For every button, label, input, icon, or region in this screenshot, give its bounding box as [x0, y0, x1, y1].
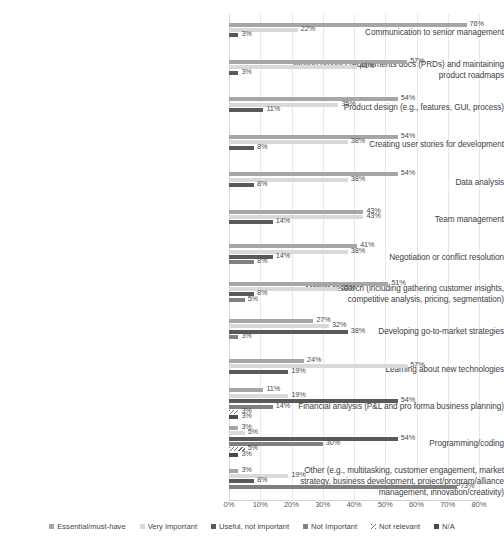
bar-very-important	[229, 324, 329, 328]
bar-row: 38%	[229, 330, 479, 334]
bar-row: 27%	[229, 319, 479, 323]
bar-value-label: 8%	[257, 256, 267, 266]
bar-row: 54%	[229, 437, 479, 441]
legend-label: Essential/must-have	[57, 522, 125, 531]
bar-row: 57%	[229, 60, 479, 64]
x-tick-label: 70%	[440, 500, 455, 509]
bar-value-label: 3%	[241, 331, 251, 341]
legend-label: Not relevant	[379, 522, 420, 531]
bar-group: 54%35%11%	[229, 97, 479, 113]
bar-not-relevant	[229, 410, 238, 414]
bar-very-important	[229, 287, 338, 291]
bar-row: 24%	[229, 359, 479, 363]
legend-item-very-important[interactable]: Very Important	[140, 522, 197, 531]
square-swatch	[211, 524, 216, 529]
bar-value-label: 3%	[241, 29, 251, 39]
bar-row: 11%	[229, 388, 479, 392]
bar-useful-not-important	[229, 183, 254, 187]
bar-essential-must-have	[229, 172, 398, 176]
bar-group: 41%38%14%8%	[229, 244, 479, 266]
bar-row: 19%	[229, 394, 479, 398]
bar-group: 43%43%14%	[229, 210, 479, 226]
legend-label: Very Important	[148, 522, 197, 531]
bar-value-label: 73%	[460, 481, 474, 491]
bar-row: 14%	[229, 405, 479, 409]
bar-row: 14%	[229, 220, 479, 224]
bar-essential-must-have	[229, 244, 357, 248]
x-tick-label: 40%	[346, 500, 361, 509]
bar-group: 11%19%54%14%3%3%	[229, 388, 479, 420]
bar-row: 8%	[229, 146, 479, 150]
bar-essential-must-have	[229, 97, 398, 101]
bar-row: 8%	[229, 479, 479, 483]
bar-useful-not-important	[229, 437, 398, 441]
bar-very-important	[229, 215, 363, 219]
x-tick-label: 20%	[284, 500, 299, 509]
bar-very-important	[229, 28, 298, 32]
bar-row: 3%	[229, 71, 479, 75]
bar-group: 54%38%8%	[229, 172, 479, 188]
bar-row: 43%	[229, 210, 479, 214]
square-swatch	[303, 524, 308, 529]
x-tick-label: 60%	[409, 500, 424, 509]
bar-value-label: 3%	[241, 411, 251, 421]
bar-not-important	[229, 442, 323, 446]
bar-row: 5%	[229, 447, 479, 451]
bar-essential-must-have	[229, 426, 238, 430]
plot-area: 76%22%3%57%41%3%54%35%11%54%38%8%54%38%8…	[229, 14, 479, 500]
bar-row: 3%	[229, 33, 479, 37]
bar-essential-must-have	[229, 60, 407, 64]
legend-item-n-a[interactable]: N/A	[434, 522, 455, 531]
bar-group: 27%32%38%3%	[229, 319, 479, 341]
bar-value-label: 3%	[241, 449, 251, 459]
bar-row: 8%	[229, 292, 479, 296]
legend-label: N/A	[442, 522, 455, 531]
bar-not-important	[229, 260, 254, 264]
bar-group: 3%5%54%30%5%3%	[229, 426, 479, 458]
bar-group: 24%57%19%	[229, 359, 479, 375]
bar-row: 3%	[229, 453, 479, 457]
bar-not-important	[229, 335, 238, 339]
bar-group: 3%19%8%73%	[229, 469, 479, 491]
bar-useful-not-important	[229, 370, 288, 374]
bar-row: 3%	[229, 426, 479, 430]
bar-row: 3%	[229, 335, 479, 339]
bar-very-important	[229, 103, 338, 107]
bar-useful-not-important	[229, 71, 238, 75]
bar-essential-must-have	[229, 388, 263, 392]
bar-row: 3%	[229, 469, 479, 473]
bar-useful-not-important	[229, 108, 263, 112]
legend-item-not-relevant[interactable]: Not relevant	[371, 522, 420, 531]
x-tick-label: 10%	[253, 500, 268, 509]
bar-row: 73%	[229, 485, 479, 489]
bar-very-important	[229, 364, 407, 368]
bar-row: 8%	[229, 260, 479, 264]
legend-item-not-important[interactable]: Not Important	[303, 522, 357, 531]
bar-row: 41%	[229, 65, 479, 69]
bar-row: 22%	[229, 28, 479, 32]
hatched-swatch	[371, 524, 376, 529]
legend-item-useful-not-important[interactable]: Useful, not important	[211, 522, 289, 531]
bar-essential-must-have	[229, 135, 398, 139]
bar-value-label: 11%	[266, 104, 280, 114]
x-tick-label: 0%	[224, 500, 235, 509]
legend-label: Not Important	[311, 522, 357, 531]
bar-row: 3%	[229, 415, 479, 419]
bar-not-important	[229, 298, 245, 302]
legend-item-essential-must-have[interactable]: Essential/must-have	[49, 522, 125, 531]
bar-useful-not-important	[229, 220, 273, 224]
bar-value-label: 8%	[257, 142, 267, 152]
bar-very-important	[229, 431, 245, 435]
x-tick-label: 30%	[315, 500, 330, 509]
bar-group: 76%22%3%	[229, 23, 479, 39]
bar-very-important	[229, 394, 288, 398]
legend-label: Useful, not important	[219, 522, 289, 531]
bar-row: 5%	[229, 298, 479, 302]
x-tick-label: 80%	[471, 500, 486, 509]
bar-essential-must-have	[229, 469, 238, 473]
bar-row: 3%	[229, 410, 479, 414]
bar-chart: Communication to senior managementWritin…	[0, 0, 504, 545]
bar-essential-must-have	[229, 210, 363, 214]
bar-row: 5%	[229, 431, 479, 435]
bar-row: 57%	[229, 364, 479, 368]
